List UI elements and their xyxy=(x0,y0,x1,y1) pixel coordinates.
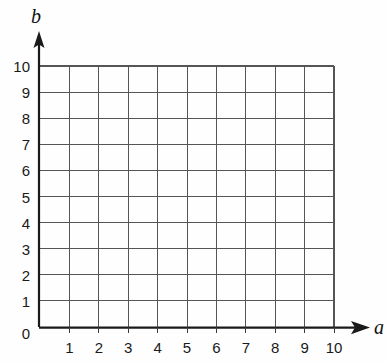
x-tick-label-8: 8 xyxy=(271,340,279,355)
grid-lines xyxy=(40,66,334,327)
y-tick-label-9: 9 xyxy=(0,85,30,100)
x-tick-label-6: 6 xyxy=(212,340,220,355)
y-tick-label-7: 7 xyxy=(0,137,30,152)
x-tick-label-3: 3 xyxy=(124,340,132,355)
y-tick-label-1: 1 xyxy=(0,293,30,308)
x-tick-label-10: 10 xyxy=(326,340,343,355)
origin-label: 0 xyxy=(0,326,30,341)
x-axis-name: a xyxy=(374,317,384,337)
y-axis-line xyxy=(34,31,45,327)
y-tick-label-6: 6 xyxy=(0,163,30,178)
y-axis-name: b xyxy=(31,6,41,26)
x-tick-label-5: 5 xyxy=(183,340,191,355)
x-axis-line xyxy=(39,321,370,334)
x-tick-label-9: 9 xyxy=(300,340,308,355)
x-tick-label-7: 7 xyxy=(242,340,250,355)
y-tick-label-4: 4 xyxy=(0,215,30,230)
y-tick-label-3: 3 xyxy=(0,241,30,256)
y-tick-label-10: 10 xyxy=(0,59,30,74)
y-tick-label-8: 8 xyxy=(0,111,30,126)
x-tick-label-4: 4 xyxy=(153,340,161,355)
x-tick-label-1: 1 xyxy=(65,340,73,355)
y-tick-label-2: 2 xyxy=(0,267,30,282)
plot-area xyxy=(0,0,389,363)
x-tick-label-2: 2 xyxy=(95,340,103,355)
coordinate-grid-figure: 10 9 8 7 6 5 4 3 2 1 0 1 2 3 4 5 6 7 8 9… xyxy=(0,0,389,363)
y-tick-label-5: 5 xyxy=(0,189,30,204)
